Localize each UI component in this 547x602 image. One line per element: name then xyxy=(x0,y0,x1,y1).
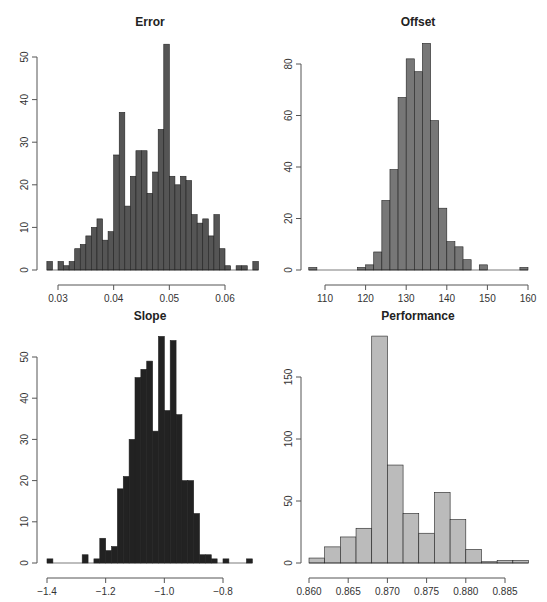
histogram-bar xyxy=(106,551,112,563)
histogram-bar xyxy=(129,439,135,563)
y-tick-label: 150 xyxy=(283,368,294,385)
y-tick-label: 10 xyxy=(19,221,30,233)
histogram-bar xyxy=(58,261,64,270)
histogram-bar xyxy=(69,261,75,270)
histogram-bar xyxy=(112,547,118,563)
histogram-bar xyxy=(390,170,398,270)
y-tick-label: 40 xyxy=(283,161,294,173)
histogram-bar xyxy=(94,559,100,563)
histogram-bar xyxy=(309,558,325,563)
histogram-bar xyxy=(520,267,528,270)
histogram-bar xyxy=(497,561,513,563)
histogram-bar xyxy=(414,72,422,270)
histogram-bar xyxy=(479,265,487,270)
histogram-bar xyxy=(108,232,114,270)
histogram-bar xyxy=(387,465,403,563)
y-axis: 020406080 xyxy=(283,58,301,273)
histogram-bar xyxy=(419,533,435,563)
y-tick-label: 30 xyxy=(19,433,30,445)
histogram-bar xyxy=(169,176,175,270)
histogram-bar xyxy=(47,261,53,270)
histogram-bar xyxy=(455,247,463,270)
histogram-bar xyxy=(225,266,231,270)
histogram-bar xyxy=(142,151,148,270)
y-tick-label: 40 xyxy=(19,94,30,106)
y-tick-label: 0 xyxy=(19,267,30,273)
y-tick-label: 20 xyxy=(19,475,30,487)
bars xyxy=(309,43,528,270)
histogram-bar xyxy=(466,549,482,563)
histogram-bar xyxy=(513,561,529,563)
histogram-bar xyxy=(214,215,220,270)
y-tick-label: 0 xyxy=(283,560,294,566)
x-tick-label: 0.865 xyxy=(336,586,361,597)
histogram-bar xyxy=(434,492,450,563)
histogram-bar xyxy=(309,267,317,270)
histogram-bar xyxy=(242,266,248,270)
x-axis: 0.8600.8650.8700.8750.8800.885 xyxy=(296,578,517,597)
histogram-bar xyxy=(175,185,181,270)
chart-title: Error xyxy=(135,15,165,29)
y-axis: 01020304050 xyxy=(19,351,37,566)
x-tick-label: 0.06 xyxy=(215,293,235,304)
histogram-bar xyxy=(97,219,103,270)
x-tick-label: 0.875 xyxy=(414,586,439,597)
histogram-bar xyxy=(200,555,206,563)
y-tick-label: 50 xyxy=(19,51,30,63)
x-tick-label: 0.870 xyxy=(375,586,400,597)
histogram-bar xyxy=(170,341,176,563)
histogram-bar xyxy=(158,129,164,270)
histogram-bar xyxy=(86,236,92,270)
histogram-bar xyxy=(194,514,200,563)
histogram-bar xyxy=(117,489,123,563)
x-tick-label: 130 xyxy=(398,293,415,304)
histogram-bar xyxy=(147,361,153,563)
histogram-bar xyxy=(356,528,372,563)
y-tick-label: 0 xyxy=(283,267,294,273)
histogram-bar xyxy=(186,181,192,270)
histogram-bar xyxy=(431,121,439,270)
y-tick-label: 20 xyxy=(19,179,30,191)
bars xyxy=(47,336,252,563)
histogram-bar xyxy=(47,559,53,563)
histogram-bar xyxy=(153,172,159,270)
y-axis: 01020304050 xyxy=(19,51,37,273)
histogram-bar xyxy=(91,227,97,270)
y-tick-label: 30 xyxy=(19,136,30,148)
histogram-bar xyxy=(203,219,209,270)
histogram-bar xyxy=(439,208,447,270)
histogram-error: Error 01020304050 0.030.040.050.06 xyxy=(19,15,258,304)
histogram-bar xyxy=(136,151,142,270)
chart-title: Slope xyxy=(134,309,167,323)
x-tick-label: 0.860 xyxy=(296,586,321,597)
y-tick-label: 50 xyxy=(283,495,294,507)
x-tick-label: −0.8 xyxy=(213,586,233,597)
histogram-bar xyxy=(253,261,259,270)
bars xyxy=(309,336,529,563)
histogram-bar xyxy=(236,266,242,270)
x-tick-label: 0.880 xyxy=(453,586,478,597)
chart-title: Performance xyxy=(381,309,455,323)
histogram-bar xyxy=(406,59,414,270)
histogram-bar xyxy=(80,244,86,270)
histogram-bar xyxy=(182,481,188,563)
x-tick-label: 150 xyxy=(479,293,496,304)
x-axis: −1.4−1.2−1.0−0.8 xyxy=(37,578,233,597)
histogram-bar xyxy=(205,555,211,563)
histogram-bar xyxy=(141,369,147,563)
y-tick-label: 50 xyxy=(19,351,30,363)
histogram-bar xyxy=(447,242,455,270)
histogram-bar xyxy=(366,265,374,270)
y-tick-label: 10 xyxy=(19,516,30,528)
histogram-bar xyxy=(340,537,356,563)
histogram-offset: Offset 020406080 110120130140150160 xyxy=(283,15,537,304)
histogram-bar xyxy=(100,538,106,563)
x-tick-label: 0.04 xyxy=(104,293,124,304)
y-tick-label: 60 xyxy=(283,110,294,122)
histogram-bar xyxy=(211,559,217,563)
histogram-bar xyxy=(188,481,194,563)
x-tick-label: −1.4 xyxy=(37,586,57,597)
x-tick-label: 140 xyxy=(438,293,455,304)
histogram-bar xyxy=(130,176,136,270)
histogram-bar xyxy=(158,336,164,563)
